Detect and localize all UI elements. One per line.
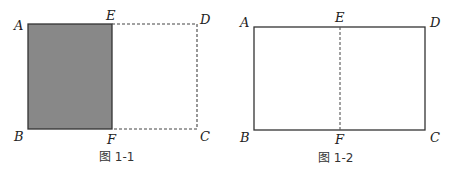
label-c: C: [200, 129, 210, 144]
shaded-rectangle-abfe: [28, 24, 112, 129]
label-f: F: [334, 132, 345, 147]
label-d: D: [429, 15, 441, 30]
figure-caption: 图 1-2: [318, 151, 353, 165]
label-a: A: [13, 18, 23, 33]
label-b: B: [239, 130, 250, 145]
label-c: C: [430, 130, 440, 145]
figure-1-1: A E D B F C 图 1-1: [13, 8, 211, 164]
label-a: A: [239, 15, 249, 30]
figure-1-2: A E D B F C 图 1-2: [239, 10, 441, 165]
figure-caption: 图 1-1: [99, 150, 134, 164]
label-e: E: [105, 8, 116, 23]
label-d: D: [199, 12, 211, 27]
dashed-rectangle-edcf: [112, 24, 197, 129]
diagram-canvas: A E D B F C 图 1-1 A E D B F C 图 1-2: [0, 0, 452, 180]
label-b: B: [13, 129, 24, 144]
label-e: E: [334, 10, 345, 25]
label-f: F: [106, 132, 117, 147]
